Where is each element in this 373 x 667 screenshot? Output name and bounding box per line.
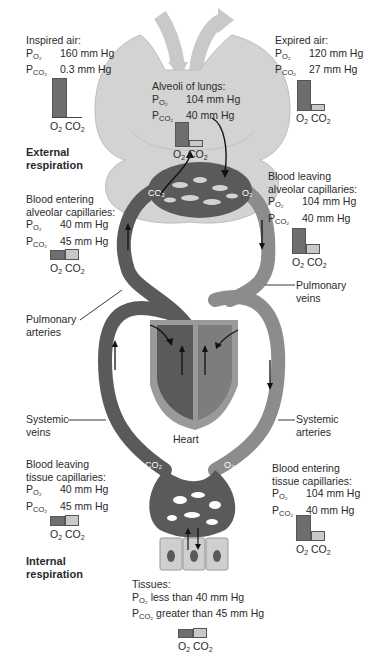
external-respiration-label: External respiration — [26, 146, 83, 172]
expired-pco2: 27 mm Hg — [309, 63, 357, 75]
blood-entering-alveolar-bar-chart — [50, 249, 86, 260]
inspired-po2: 160 mm Hg — [60, 47, 114, 59]
blood-entering-tissue-bar-chart — [296, 515, 332, 541]
inspired-air-label: Inspired air: PO₂160 mm Hg PCO₂0.3 mm Hg — [26, 34, 114, 80]
blood-leaving-alveolar-label: Blood leaving alveolar capillaries: PO₂1… — [268, 170, 357, 228]
vessel-o2-label-bottom: O₂ — [224, 460, 235, 470]
internal-respiration-label: Internal respiration — [26, 555, 83, 581]
alveoli-bar-chart — [175, 122, 211, 147]
systemic-arteries-label: Systemic arteries — [296, 413, 339, 438]
heart — [150, 320, 238, 430]
expired-air-label: Expired air: PO₂120 mm Hg PCO₂27 mm Hg — [275, 34, 363, 80]
tissues-label: Tissues: PO₂ less than 40 mm Hg PCO₂ gre… — [132, 578, 264, 624]
heart-label: Heart — [173, 433, 199, 446]
alveoli-pco2: 40 mm Hg — [186, 109, 234, 121]
tissues-po2: less than 40 mm Hg — [151, 591, 244, 603]
vessel-o2-label-top: O₂ — [242, 188, 253, 198]
tissues-bar-chart — [178, 628, 214, 638]
inspired-pco2: 0.3 mm Hg — [60, 63, 111, 75]
expired-po2: 120 mm Hg — [309, 47, 363, 59]
inspired-air-bar-chart — [50, 78, 86, 118]
pulmonary-veins-label: Pulmonary veins — [296, 279, 346, 304]
vessel-co2-label-top: CO₂ — [148, 188, 166, 198]
systemic-veins-label: Systemic veins — [26, 413, 69, 438]
blood-leaving-tissue-bar-chart — [50, 515, 86, 526]
blood-leaving-tissue-label: Blood leaving tissue capillaries: PO₂40 … — [26, 458, 108, 516]
o2-bar — [52, 78, 67, 118]
tissues-pco2: greater than 45 mm Hg — [156, 607, 264, 619]
alveoli-po2: 104 mm Hg — [186, 93, 240, 105]
vessel-co2-label-bottom: CO₂ — [145, 460, 163, 470]
blood-entering-tissue-label: Blood entering tissue capillaries: PO₂10… — [272, 462, 360, 520]
blood-leaving-alveolar-bar-chart — [292, 228, 328, 254]
pulmonary-arteries-label: Pulmonary arteries — [26, 313, 76, 338]
alveoli-label: Alveoli of lungs: PO₂104 mm Hg PCO₂40 mm… — [152, 80, 240, 126]
bar-axis-labels: O2 CO2 — [50, 120, 85, 133]
blood-entering-alveolar-label: Blood entering alveolar capillaries: PO₂… — [26, 193, 115, 251]
expired-air-bar-chart — [297, 80, 333, 111]
